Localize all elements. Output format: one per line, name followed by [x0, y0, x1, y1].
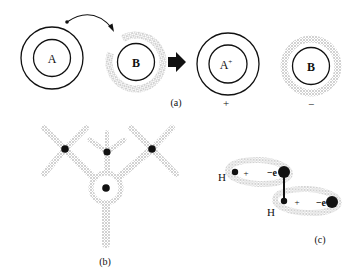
ion-b-label: B [307, 60, 315, 74]
electron-label-1: −e [267, 167, 278, 178]
electron-site-2 [326, 196, 338, 208]
electron-transfer-arrow [65, 15, 114, 32]
caption-a: (a) [170, 97, 181, 109]
caption-c: (c) [314, 234, 325, 246]
ion-a-label: A+ [220, 58, 233, 72]
ion-b-minus: B − [284, 39, 338, 110]
panel-c: H + −e H + −e (c) [218, 158, 340, 246]
panel-b: (b) [44, 128, 176, 268]
charge-minus: − [308, 98, 314, 110]
electron-site-1 [278, 166, 290, 178]
atom-a-label: A [48, 52, 57, 66]
atom-dot [148, 145, 156, 153]
bonding-diagram: A B A+ + B − (a) [0, 0, 363, 280]
plus-2: + [294, 197, 299, 207]
atom-b-label: B [132, 56, 140, 70]
plus-1: + [243, 168, 248, 178]
central-atom-dot [102, 184, 110, 192]
atom-a: A [21, 27, 83, 89]
h-nucleus-1 [232, 169, 238, 175]
panel-a: A B A+ + B − (a) [21, 15, 338, 110]
charge-plus: + [223, 97, 229, 109]
reaction-arrow-icon [168, 52, 186, 72]
atom-dot [103, 148, 110, 155]
electron-label-2: −e [316, 197, 327, 208]
atom-b: B [99, 25, 173, 99]
h-label-2: H [267, 206, 275, 218]
atom-dot [61, 145, 69, 153]
h-label-1: H [218, 171, 226, 183]
caption-b: (b) [99, 256, 111, 268]
ion-a-plus: A+ + [197, 33, 259, 109]
h-nucleus-2 [281, 198, 287, 204]
